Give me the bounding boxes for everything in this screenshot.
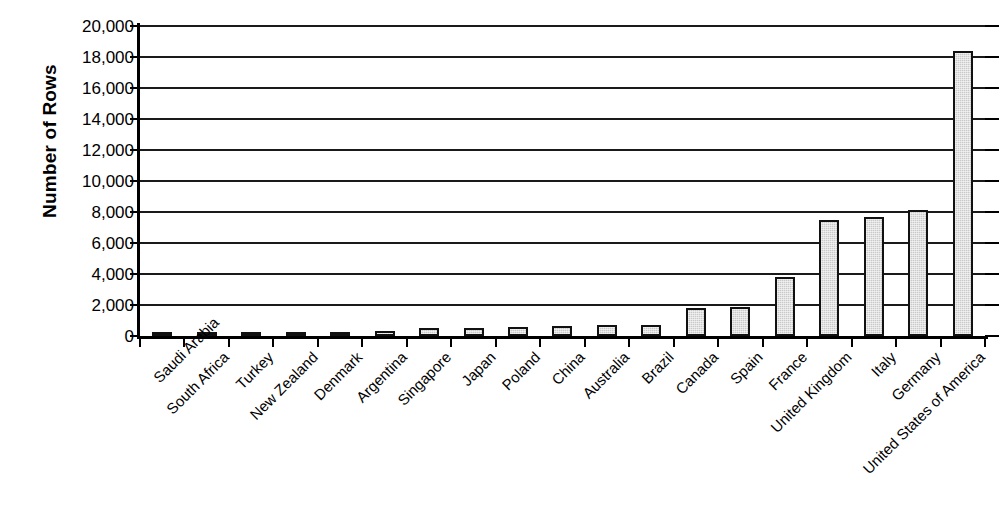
x-axis-tick [940,336,942,347]
bar[interactable] [730,307,750,336]
y-axis-tick-label: 10,000 [0,173,134,190]
bar-chart: Number of Rows 02,0004,0006,0008,00010,0… [0,0,1007,514]
bar-slot [407,26,451,336]
bar-slot [718,26,762,336]
y-axis-right-tick [985,180,999,182]
bar[interactable] [552,326,572,336]
bar-slot [896,26,940,336]
bar-slot [540,26,584,336]
bar[interactable] [330,332,350,336]
y-axis-left-tick [130,304,140,306]
y-axis-right-tick [985,56,999,58]
bar[interactable] [641,325,661,336]
bar[interactable] [375,331,395,336]
x-axis-tick [717,336,719,347]
bar[interactable] [286,332,306,336]
y-axis-tick-label: 20,000 [0,18,134,35]
x-axis-category-label: Saudi Arabia [151,349,187,385]
y-axis-tick-label: 8,000 [0,204,134,221]
y-axis-tick-label: 2,000 [0,297,134,314]
y-axis-right-tick [985,87,999,89]
y-axis-right-tick [985,273,999,275]
y-axis-left-tick [130,242,140,244]
bar[interactable] [508,327,528,336]
y-axis-tick-label: 0 [0,328,134,345]
y-axis-right-tick [985,335,999,337]
bar-slot [451,26,495,336]
bar[interactable] [241,332,261,336]
bar-slot [362,26,406,336]
bar[interactable] [953,51,973,336]
x-axis-tick [851,336,853,347]
x-axis-tick [450,336,452,347]
bar-slot [585,26,629,336]
y-axis-tick-label: 14,000 [0,111,134,128]
y-axis-right-tick [985,211,999,213]
y-axis-tick-label: 18,000 [0,49,134,66]
bar[interactable] [464,328,484,336]
bar[interactable] [419,328,439,336]
bar-slot [852,26,896,336]
bar-slot [674,26,718,336]
x-axis-tick [228,336,230,347]
x-axis-tick [806,336,808,347]
x-axis-tick [272,336,274,347]
y-axis-right-tick [985,118,999,120]
bar[interactable] [819,220,839,336]
bar-slot [629,26,673,336]
y-axis-left-tick [130,273,140,275]
x-axis-tick [584,336,586,347]
bar-slot [318,26,362,336]
y-axis-right-tick [985,25,999,27]
y-axis-right-tick [985,149,999,151]
bar[interactable] [597,325,617,336]
x-axis-category-labels: Saudi ArabiaSouth AfricaTurkeyNew Zealan… [140,349,1007,514]
x-axis-tick [673,336,675,347]
plot-area [140,26,985,336]
bar-slot [763,26,807,336]
x-axis-tick [539,336,541,347]
x-axis-tick [762,336,764,347]
bar[interactable] [775,277,795,336]
y-axis-right-tick [985,242,999,244]
bar[interactable] [908,210,928,336]
x-axis-tick [139,336,141,347]
bar-slot [140,26,184,336]
bars-group [140,26,985,336]
y-axis-tick-label: 4,000 [0,266,134,283]
x-axis-tick [317,336,319,347]
y-axis-tick-label: 12,000 [0,142,134,159]
y-axis-left-tick [130,211,140,213]
y-axis-left-tick [130,25,140,27]
y-axis-tick-labels: 02,0004,0006,0008,00010,00012,00014,0001… [0,0,134,514]
bar[interactable] [152,332,172,336]
bar-slot [807,26,851,336]
x-axis-tick [895,336,897,347]
x-axis-line [137,336,988,339]
bar[interactable] [864,217,884,336]
x-axis-tick [406,336,408,347]
y-axis-left-tick [130,180,140,182]
x-axis-tick [361,336,363,347]
x-axis-tick [495,336,497,347]
bar-slot [273,26,317,336]
bar[interactable] [686,308,706,336]
bar-slot [184,26,228,336]
y-axis-right-tick [985,304,999,306]
y-axis-tick-label: 16,000 [0,80,134,97]
y-axis-left-tick [130,87,140,89]
y-axis-left-tick [130,149,140,151]
y-axis-left-tick [130,118,140,120]
x-axis-tick [628,336,630,347]
y-axis-left-tick [130,56,140,58]
y-axis-tick-label: 6,000 [0,235,134,252]
x-axis-tick [984,336,986,347]
bar-slot [496,26,540,336]
bar-slot [229,26,273,336]
bar-slot [941,26,985,336]
